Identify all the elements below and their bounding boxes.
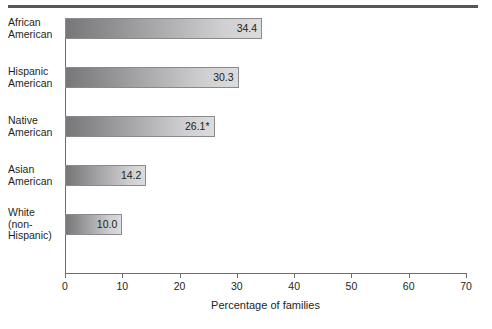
category-label-line: (non- <box>8 218 33 230</box>
bar-value-label-2: 30.3 <box>65 67 239 88</box>
bar-value-label-3: 26.1* <box>65 116 215 137</box>
x-tick-20 <box>180 273 181 278</box>
x-axis-line <box>65 273 466 274</box>
x-tick-label-40: 40 <box>274 280 314 292</box>
x-tick-40 <box>294 273 295 278</box>
x-tick-30 <box>237 273 238 278</box>
x-tick-label-60: 60 <box>389 280 429 292</box>
x-tick-label-70: 70 <box>446 280 486 292</box>
category-label-3: NativeAmerican <box>0 115 58 138</box>
category-label-5: White(non-Hispanic) <box>0 207 58 242</box>
bar-value-label-1: 34.4 <box>65 18 262 39</box>
bar-row: White(non-Hispanic)10.0 <box>0 214 492 235</box>
bar-value-label-4: 14.2 <box>65 165 146 186</box>
bar-row: NativeAmerican26.1* <box>0 116 492 137</box>
category-label-line: American <box>8 126 52 138</box>
x-tick-60 <box>409 273 410 278</box>
category-label-1: AfricanAmerican <box>0 17 58 40</box>
bar-chart-figure: 010203040506070 AfricanAmerican34.4Hispa… <box>0 0 492 329</box>
caption-remnant <box>40 324 280 329</box>
category-label-line: White <box>8 206 35 218</box>
x-tick-label-50: 50 <box>331 280 371 292</box>
x-tick-50 <box>351 273 352 278</box>
category-label-line: African <box>8 16 41 28</box>
category-label-line: American <box>8 77 52 89</box>
x-tick-label-10: 10 <box>102 280 142 292</box>
bar-value-label-5: 10.0 <box>65 214 122 235</box>
x-tick-70 <box>466 273 467 278</box>
x-axis-title: Percentage of families <box>65 299 466 311</box>
bar-row: AfricanAmerican34.4 <box>0 18 492 39</box>
x-tick-label-20: 20 <box>160 280 200 292</box>
category-label-line: Native <box>8 114 38 126</box>
category-label-4: AsianAmerican <box>0 164 58 187</box>
x-tick-label-30: 30 <box>217 280 257 292</box>
category-label-line: Asian <box>8 163 34 175</box>
x-tick-0 <box>65 273 66 278</box>
bar-row: AsianAmerican14.2 <box>0 165 492 186</box>
bar-row: HispanicAmerican30.3 <box>0 67 492 88</box>
category-label-line: American <box>8 28 52 40</box>
category-label-line: Hispanic <box>8 65 48 77</box>
x-tick-10 <box>122 273 123 278</box>
category-label-line: American <box>8 175 52 187</box>
x-tick-label-0: 0 <box>45 280 85 292</box>
category-label-line: Hispanic) <box>8 229 52 241</box>
category-label-2: HispanicAmerican <box>0 66 58 89</box>
plot-area: 010203040506070 AfricanAmerican34.4Hispa… <box>0 0 492 329</box>
